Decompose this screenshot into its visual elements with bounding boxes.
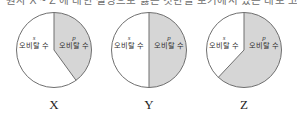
pie-z-graphic: s 오비탈 수 p 오비탈 수 <box>205 11 283 89</box>
pie-y-slices <box>112 13 187 88</box>
pie-z-svg <box>205 11 283 89</box>
cut-off-header-text: 원자 X ~ Z 에 대한 설명으로 옳은 것만을 보기에서 있는 대로 고른 … <box>6 0 297 7</box>
pie-y-svg <box>110 11 188 89</box>
pie-chart-row: s 오비탈 수 p 오비탈 수 X <box>0 9 297 116</box>
pie-z-slices <box>207 13 282 88</box>
pie-chart-y: s 오비탈 수 p 오비탈 수 Y <box>101 9 197 116</box>
pie-x-svg <box>15 11 93 89</box>
pie-chart-z: s 오비탈 수 p 오비탈 수 Z <box>196 9 292 116</box>
pie-chart-x: s 오비탈 수 p 오비탈 수 X <box>6 9 102 116</box>
pie-x-caption: X <box>6 97 102 113</box>
cut-off-header-strip: 원자 X ~ Z 에 대한 설명으로 옳은 것만을 보기에서 있는 대로 고른 … <box>0 0 297 9</box>
pie-y-caption: Y <box>101 97 197 113</box>
pie-z-caption: Z <box>196 97 292 113</box>
pie-x-graphic: s 오비탈 수 p 오비탈 수 <box>15 11 93 89</box>
pie-x-slices <box>17 13 92 88</box>
pie-y-graphic: s 오비탈 수 p 오비탈 수 <box>110 11 188 89</box>
pie-y-slice-p <box>149 13 187 88</box>
